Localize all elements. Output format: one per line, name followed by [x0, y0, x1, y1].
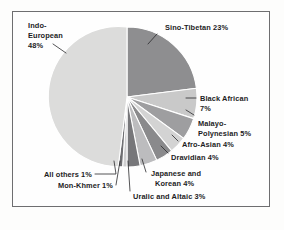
label-indo-european-line3: 48% [28, 41, 43, 50]
pie-slice-indo-european[interactable] [48, 26, 127, 166]
label-black-african-line1: Black African [200, 94, 249, 103]
label-japanese-korean-line1: Japanese and [151, 169, 201, 178]
label-all-others: All others 1% [44, 170, 92, 179]
leader-line-indo-european [53, 44, 66, 53]
pie-slice-sino-tibetan[interactable] [127, 27, 196, 97]
label-indo-european-line1: Indo- [28, 21, 47, 30]
label-dravidian: Dravidian 4% [171, 153, 219, 162]
figure-canvas: Indo- European 48% Sino-Tibetan 23% Blac… [0, 0, 284, 230]
label-black-african-line2: 7% [200, 104, 211, 113]
pie-chart: Indo- European 48% Sino-Tibetan 23% Blac… [0, 0, 284, 230]
label-japanese-korean-line2: Korean 4% [155, 179, 194, 188]
label-malayo-polynesian-line1: Malayo- [198, 119, 227, 128]
label-afro-asian: Afro-Asian 4% [182, 140, 234, 149]
label-mon-khmer: Mon-Khmer 1% [58, 181, 113, 190]
label-indo-european-line2: European [28, 31, 63, 40]
label-uralic-altaic: Uralic and Altaic 3% [133, 192, 206, 201]
label-sino-tibetan: Sino-Tibetan 23% [165, 23, 228, 32]
label-malayo-polynesian-line2: Polynesian 5% [198, 129, 251, 138]
